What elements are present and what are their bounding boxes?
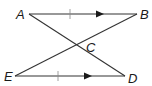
parallel-arrow-ab-icon bbox=[96, 11, 104, 18]
geometry-diagram: A B C D E bbox=[0, 0, 152, 86]
label-point-d: D bbox=[128, 71, 137, 86]
label-point-c: C bbox=[86, 40, 96, 55]
parallel-arrow-ed-icon bbox=[84, 73, 92, 80]
label-point-a: A bbox=[15, 7, 25, 22]
label-point-e: E bbox=[4, 69, 13, 84]
label-point-b: B bbox=[140, 7, 149, 22]
segment-eb bbox=[15, 14, 137, 76]
